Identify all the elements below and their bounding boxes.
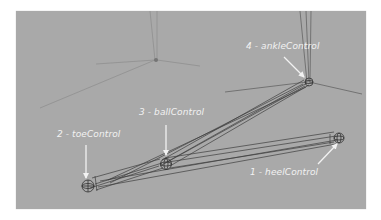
label-ball-control: 3 - ballControl <box>139 107 204 117</box>
ankle-upper-bones <box>225 11 362 94</box>
heel-joint-icon <box>334 133 344 143</box>
label-ankle-control: 4 - ankleControl <box>246 41 320 51</box>
heel-bones <box>98 132 337 187</box>
ankle-arrow-icon <box>284 57 304 77</box>
label-heel-control: 1 - heelControl <box>250 167 318 177</box>
toe-joint-icon <box>82 180 94 192</box>
ball-joint-icon <box>161 159 172 170</box>
label-toe-control: 2 - toeControl <box>57 129 120 139</box>
background-joint <box>40 11 200 108</box>
